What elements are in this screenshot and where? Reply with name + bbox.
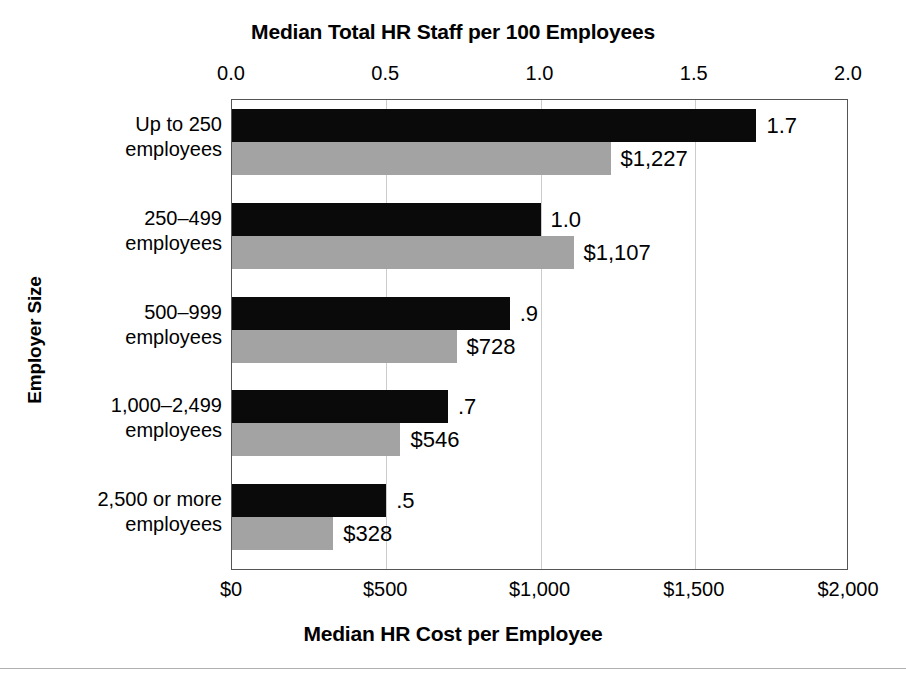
axis-tick-label: $500	[363, 578, 408, 601]
bar-group: .9$728	[232, 288, 847, 382]
bar-staff	[232, 109, 756, 142]
bar-staff	[232, 203, 541, 236]
axis-tick-label: $0	[220, 578, 242, 601]
category-label: 1,000–2,499employees	[12, 393, 222, 443]
bar-value-label-staff: .9	[520, 297, 538, 330]
chart-top-axis-title: Median Total HR Staff per 100 Employees	[0, 20, 906, 44]
bars-layer: 1.7$1,2271.0$1,107.9$728.7$546.5$328	[232, 100, 847, 569]
bar-group: .5$328	[232, 475, 847, 569]
bar-cost	[232, 423, 400, 456]
bar-staff	[232, 484, 386, 517]
bar-value-label-cost: $546	[410, 423, 459, 456]
axis-tick-label: 0.5	[371, 62, 399, 85]
bar-value-label-cost: $728	[467, 330, 516, 363]
bar-value-label-cost: $1,107	[584, 236, 651, 269]
chart-bottom-axis-title: Median HR Cost per Employee	[0, 622, 906, 646]
bar-staff	[232, 297, 510, 330]
axis-tick-label: $1,500	[663, 578, 724, 601]
category-label: 250–499employees	[12, 206, 222, 256]
bar-cost	[232, 142, 611, 175]
category-label: 500–999employees	[12, 300, 222, 350]
bar-group: 1.7$1,227	[232, 100, 847, 194]
bar-value-label-cost: $328	[343, 517, 392, 550]
bar-value-label-cost: $1,227	[621, 142, 688, 175]
axis-tick-label: 0.0	[217, 62, 245, 85]
bar-value-label-staff: .5	[396, 484, 414, 517]
footer-divider	[0, 668, 906, 669]
axis-tick-label: $2,000	[817, 578, 878, 601]
bar-group: .7$546	[232, 381, 847, 475]
bar-cost	[232, 517, 333, 550]
bar-value-label-staff: 1.0	[551, 203, 582, 236]
axis-tick-label: 2.0	[834, 62, 862, 85]
category-axis-labels: Up to 250employees250–499employees500–99…	[10, 100, 222, 569]
axis-tick-label: 1.5	[680, 62, 708, 85]
category-label: 2,500 or moreemployees	[12, 487, 222, 537]
bar-group: 1.0$1,107	[232, 194, 847, 288]
bar-cost	[232, 236, 574, 269]
category-label: Up to 250employees	[12, 112, 222, 162]
bar-staff	[232, 390, 448, 423]
bar-cost	[232, 330, 457, 363]
bar-value-label-staff: .7	[458, 390, 476, 423]
bar-value-label-staff: 1.7	[766, 109, 797, 142]
chart-figure: Median Total HR Staff per 100 Employees …	[0, 0, 906, 674]
axis-tick-label: 1.0	[526, 62, 554, 85]
axis-tick-label: $1,000	[509, 578, 570, 601]
